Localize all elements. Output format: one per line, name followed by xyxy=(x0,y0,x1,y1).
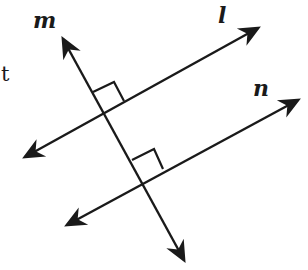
label-n: n xyxy=(253,77,269,99)
label-l: l xyxy=(218,4,226,26)
right-angle-marker-ml xyxy=(93,82,124,101)
line-n xyxy=(67,100,298,225)
lines-figure xyxy=(0,0,308,270)
diagram-canvas: m l n t xyxy=(0,0,308,270)
line-m xyxy=(63,39,184,260)
label-t: t xyxy=(1,64,9,85)
right-angle-marker-mn xyxy=(132,149,163,169)
line-l xyxy=(25,28,258,157)
label-m: m xyxy=(33,9,56,31)
